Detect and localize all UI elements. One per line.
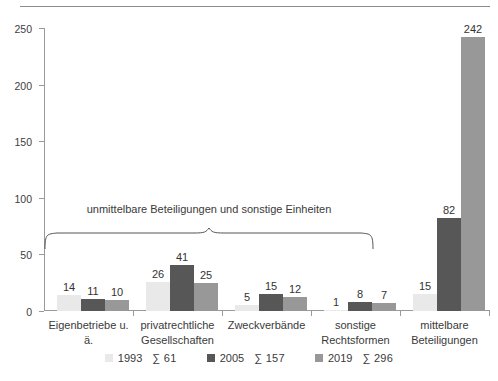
bar-value: 14 <box>63 281 75 293</box>
x-category-label-eigenbetriebe: Eigenbetriebe u. ä. <box>44 318 133 348</box>
y-tick-label-250: 250 <box>14 23 32 35</box>
bar-group-eigenbetriebe: 14 11 10 <box>44 28 133 311</box>
x-category-label-mittelbare: mittelbare Beteiligungen <box>400 318 489 348</box>
x-separator-2 <box>222 311 223 316</box>
x-separator-3 <box>311 311 312 316</box>
bar-2019-eigenbetriebe[interactable]: 10 <box>105 300 129 311</box>
legend-swatch-icon <box>207 354 215 362</box>
bar-value: 10 <box>111 286 123 298</box>
bar-value: 1 <box>333 296 339 308</box>
x-separator-5 <box>489 311 490 316</box>
y-tick-label-200: 200 <box>14 80 32 92</box>
bar-value: 26 <box>152 268 164 280</box>
bar-value: 82 <box>443 204 455 216</box>
x-category-label-zweckverbaende: Zweckverbände <box>222 318 311 333</box>
bar-group-sonstige-rechtsformen: 1 8 7 <box>311 28 400 311</box>
legend-sum: ∑ 296 <box>362 352 393 364</box>
x-category-line: Gesellschaften <box>133 333 222 348</box>
bar-2005-mittelbare[interactable]: 82 <box>437 218 461 311</box>
bar-2019-mittelbare[interactable]: 242 <box>461 37 485 311</box>
bar-value: 15 <box>419 280 431 292</box>
bar-1993-zweckverbaende[interactable]: 5 <box>235 305 259 311</box>
x-separator-1 <box>133 311 134 316</box>
bar-2005-sonstige[interactable]: 8 <box>348 302 372 311</box>
bar-value: 242 <box>464 23 482 35</box>
legend-item-2005[interactable]: 2005 ∑ 157 <box>207 352 285 364</box>
bar-1993-eigenbetriebe[interactable]: 14 <box>57 295 81 311</box>
legend-item-2019[interactable]: 2019 ∑ 296 <box>315 352 393 364</box>
bar-group-mittelbare-beteiligungen: 15 82 242 <box>400 28 489 311</box>
chart-legend: 1993 ∑ 61 2005 ∑ 157 2019 ∑ 296 <box>0 352 498 364</box>
bar-value: 5 <box>244 291 250 303</box>
y-tick-label-150: 150 <box>14 136 32 148</box>
bar-value: 41 <box>176 251 188 263</box>
x-category-line: privatrechtliche <box>133 318 222 333</box>
bar-value: 25 <box>200 269 212 281</box>
bar-2019-privatrechtliche[interactable]: 25 <box>194 283 218 311</box>
bar-2005-eigenbetriebe[interactable]: 11 <box>81 299 105 312</box>
x-category-label-privatrechtliche: privatrechtliche Gesellschaften <box>133 318 222 348</box>
bar-value: 11 <box>87 285 98 297</box>
bar-value: 12 <box>289 283 301 295</box>
y-tick-label-50: 50 <box>20 249 32 261</box>
legend-swatch-icon <box>315 354 323 362</box>
legend-label: 2005 <box>220 352 244 364</box>
legend-label: 2019 <box>328 352 352 364</box>
bar-1993-privatrechtliche[interactable]: 26 <box>146 282 170 311</box>
y-tick-label-0: 0 <box>26 306 32 318</box>
legend-item-1993[interactable]: 1993 ∑ 61 <box>105 352 177 364</box>
legend-swatch-icon <box>105 354 113 362</box>
bar-value: 8 <box>357 288 363 300</box>
bar-value: 15 <box>265 280 277 292</box>
bar-group-zweckverbaende: 5 15 12 <box>222 28 311 311</box>
bar-2019-sonstige[interactable]: 7 <box>372 303 396 311</box>
curly-brace-icon <box>44 228 374 250</box>
bar-2019-zweckverbaende[interactable]: 12 <box>283 297 307 311</box>
bar-value: 7 <box>381 289 387 301</box>
x-category-line: Zweckverbände <box>222 318 311 333</box>
y-tick-0: 0 <box>39 311 44 312</box>
x-category-line: mittelbare <box>400 318 489 333</box>
x-category-line: sonstige <box>311 318 400 333</box>
y-tick-label-100: 100 <box>14 193 32 205</box>
x-separator-4 <box>400 311 401 316</box>
x-category-line: Beteiligungen <box>400 333 489 348</box>
x-category-label-sonstige: sonstige Rechtsformen <box>311 318 400 348</box>
bar-group-privatrechtliche-gesellschaften: 26 41 25 <box>133 28 222 311</box>
legend-sum: ∑ 157 <box>254 352 285 364</box>
x-category-line: Eigenbetriebe u. ä. <box>44 318 133 348</box>
brace-annotation-label: unmittelbare Beteiligungen und sonstige … <box>44 203 374 215</box>
bar-2005-zweckverbaende[interactable]: 15 <box>259 294 283 311</box>
bar-1993-mittelbare[interactable]: 15 <box>413 294 437 311</box>
plot-area: 0 50 100 150 200 250 14 11 <box>44 28 490 311</box>
bar-chart: 0 50 100 150 200 250 14 11 <box>0 0 498 381</box>
bar-2005-privatrechtliche[interactable]: 41 <box>170 265 194 311</box>
legend-label: 1993 <box>118 352 142 364</box>
top-divider-rule <box>20 6 490 7</box>
bar-1993-sonstige[interactable]: 1 <box>324 310 348 311</box>
x-category-line: Rechtsformen <box>311 333 400 348</box>
brace-annotation <box>44 228 374 250</box>
legend-sum: ∑ 61 <box>152 352 176 364</box>
